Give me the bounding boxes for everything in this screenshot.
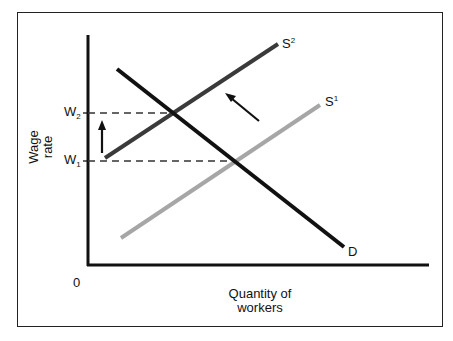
demand-label: D bbox=[348, 245, 357, 258]
supply-shift-arrow-icon bbox=[225, 93, 259, 121]
w2-label: W2 bbox=[64, 105, 81, 118]
x-axis-label: Quantity of workers bbox=[205, 287, 315, 315]
wage-increase-arrow-icon bbox=[98, 120, 106, 153]
s1-label: S1 bbox=[325, 95, 338, 108]
s2-label: S2 bbox=[282, 37, 295, 50]
supply-curve-s1 bbox=[121, 105, 320, 238]
supply-curve-s2 bbox=[105, 44, 278, 158]
origin-label: 0 bbox=[73, 276, 80, 289]
w1-label: W1 bbox=[64, 153, 81, 166]
y-axis-label: Wage rate bbox=[27, 117, 61, 177]
